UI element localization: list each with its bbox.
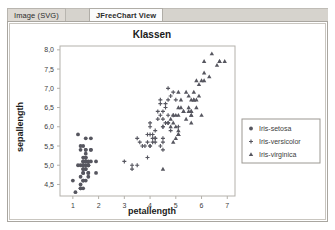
tab-bar: Image (SVG) JFreeChart View <box>7 8 328 22</box>
x-tick-label: 7 <box>225 202 229 209</box>
application-window: Image (SVG) JFreeChart View Klassen 1234… <box>0 0 335 230</box>
chart-legend[interactable]: Iris-setosaIris-versicolorIris-virginica <box>242 119 320 163</box>
y-tick-label: 5,5 <box>44 143 54 150</box>
y-tick-label: 7,5 <box>44 66 54 73</box>
y-tick-label: 7,0 <box>44 85 54 92</box>
x-axis-label: petallength <box>128 206 176 216</box>
x-tick-label: 6 <box>200 202 204 209</box>
plot-frame <box>60 46 235 196</box>
y-tick-label: 5,0 <box>44 162 54 169</box>
data-point <box>84 152 88 156</box>
legend-item-label[interactable]: Iris-versicolor <box>259 138 301 145</box>
data-point <box>89 148 93 152</box>
data-point <box>94 159 98 163</box>
chart-panel-inner: Klassen 1234567 4,55,05,56,06,57,07,58,0… <box>9 23 326 220</box>
data-point <box>89 136 93 140</box>
data-point <box>79 175 83 179</box>
data-point <box>81 179 85 183</box>
y-tick-label: 6,0 <box>44 123 54 130</box>
data-point <box>86 171 90 175</box>
data-point <box>71 179 75 183</box>
x-tick-label: 1 <box>71 202 75 209</box>
data-point <box>86 159 90 163</box>
data-point <box>94 171 98 175</box>
data-point <box>249 127 253 131</box>
data-point <box>79 186 83 190</box>
scatter-chart[interactable]: Klassen 1234567 4,55,05,56,06,57,07,58,0… <box>10 24 325 219</box>
data-point <box>84 156 88 160</box>
data-point <box>74 190 78 194</box>
y-tick-label: 8,0 <box>44 46 54 53</box>
x-tick-label: 2 <box>97 202 101 209</box>
y-tick-label: 4,5 <box>44 181 54 188</box>
data-point <box>86 163 90 167</box>
data-point <box>86 175 90 179</box>
tab-image-svg[interactable]: Image (SVG) <box>7 8 66 22</box>
legend-item-label[interactable]: Iris-setosa <box>259 125 291 132</box>
chart-title: Klassen <box>133 29 171 40</box>
data-point <box>79 148 83 152</box>
y-tick-label: 6,5 <box>44 104 54 111</box>
data-point <box>84 136 88 140</box>
data-point <box>79 144 83 148</box>
data-point <box>81 171 85 175</box>
data-point <box>84 148 88 152</box>
data-point <box>79 183 83 187</box>
chart-panel: Klassen 1234567 4,55,05,56,06,57,07,58,0… <box>7 21 328 222</box>
x-tick-label: 3 <box>122 202 126 209</box>
data-point <box>76 133 80 137</box>
y-axis-label: sepallength <box>15 102 25 152</box>
data-point <box>81 163 85 167</box>
data-point <box>81 167 85 171</box>
legend-item-label[interactable]: Iris-virginica <box>259 151 296 159</box>
chart-container: Klassen 1234567 4,55,05,56,06,57,07,58,0… <box>10 24 325 219</box>
tab-jfreechart-view[interactable]: JFreeChart View <box>89 8 163 22</box>
